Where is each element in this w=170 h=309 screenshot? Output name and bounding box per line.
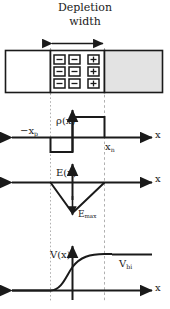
figure-graphics xyxy=(0,0,170,309)
p-type-region xyxy=(6,51,51,93)
rho-curve xyxy=(51,117,105,152)
e-curve xyxy=(51,183,105,214)
v-curve xyxy=(12,254,112,291)
n-type-region xyxy=(105,51,163,93)
charge-density-plot xyxy=(12,110,152,152)
pn-junction-figure: Depletion width p-type n-type ρ(x) −xp x… xyxy=(0,0,170,309)
electric-field-plot xyxy=(12,164,152,215)
potential-plot xyxy=(12,246,152,300)
